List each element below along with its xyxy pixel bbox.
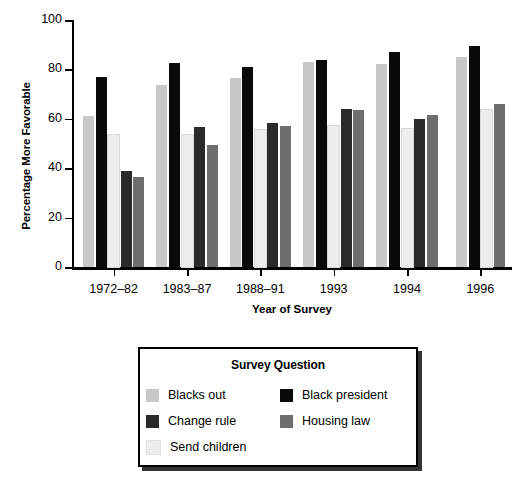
y-axis-tick xyxy=(65,267,72,269)
y-axis-tick-label: 20 xyxy=(30,210,62,224)
x-axis-tick xyxy=(114,269,116,276)
x-axis-tick-label: 1996 xyxy=(466,282,494,296)
y-axis-tick xyxy=(65,218,72,220)
y-axis-line xyxy=(72,20,74,269)
bar xyxy=(353,110,364,267)
x-axis-tick xyxy=(334,269,336,276)
bar xyxy=(328,126,339,267)
y-axis-tick xyxy=(65,20,72,22)
y-axis-tick-label: 80 xyxy=(30,61,62,75)
legend-swatch xyxy=(280,415,293,428)
bar xyxy=(402,129,413,267)
legend-label: Change rule xyxy=(168,414,236,428)
bar xyxy=(280,126,291,267)
legend-entries: Blacks outBlack presidentChange ruleHous… xyxy=(140,382,416,460)
y-axis-tick xyxy=(65,69,72,71)
x-axis-tick-label: 1994 xyxy=(393,282,421,296)
y-axis-tick xyxy=(65,119,72,121)
bar xyxy=(255,130,266,267)
bar xyxy=(242,67,253,267)
x-axis-line xyxy=(72,267,512,270)
legend-swatch xyxy=(146,415,159,428)
legend-item: Change rule xyxy=(146,408,280,434)
bar xyxy=(83,116,94,267)
y-axis-tick-label: 60 xyxy=(30,111,62,125)
legend-swatch xyxy=(146,440,161,455)
bar xyxy=(389,52,400,267)
bar xyxy=(481,110,492,267)
bar xyxy=(182,135,193,267)
plot-area: 020406080100 1972–821983–871988–91199319… xyxy=(72,20,512,269)
x-axis-tick-label: 1972–82 xyxy=(89,282,138,296)
x-axis-tick xyxy=(187,269,189,276)
bar xyxy=(303,62,314,267)
legend-label: Send children xyxy=(170,440,246,454)
y-axis-tick-label: 100 xyxy=(30,12,62,26)
bar xyxy=(376,64,387,267)
bar xyxy=(207,145,218,267)
legend-label: Blacks out xyxy=(168,388,226,402)
x-axis-tick xyxy=(480,269,482,276)
bar xyxy=(108,135,119,267)
legend-item: Blacks out xyxy=(146,382,280,408)
y-axis-tick xyxy=(65,168,72,170)
bar xyxy=(427,115,438,267)
x-axis-tick xyxy=(407,269,409,276)
legend-item: Send children xyxy=(146,434,280,460)
legend-label: Black president xyxy=(302,388,387,402)
bar xyxy=(230,78,241,267)
bar xyxy=(494,104,505,267)
legend-item: Housing law xyxy=(280,408,418,434)
bar xyxy=(341,109,352,267)
y-axis-title: Percentage More Favorable xyxy=(20,46,32,266)
bar xyxy=(194,127,205,267)
bar xyxy=(456,57,467,267)
legend-title: Survey Question xyxy=(140,358,416,372)
bar-chart-figure: Percentage More Favorable 020406080100 1… xyxy=(0,0,530,330)
x-axis-title: Year of Survey xyxy=(72,303,512,315)
y-axis-tick-label: 0 xyxy=(30,259,62,273)
x-axis-tick-label: 1988–91 xyxy=(236,282,285,296)
bar xyxy=(133,177,144,267)
legend-item: Black president xyxy=(280,382,418,408)
bar xyxy=(156,85,167,267)
x-axis-tick xyxy=(260,269,262,276)
bar xyxy=(169,63,180,267)
x-axis-tick-label: 1993 xyxy=(320,282,348,296)
legend-label: Housing law xyxy=(302,414,370,428)
bar xyxy=(267,123,278,267)
bar xyxy=(121,171,132,267)
legend-box: Survey Question Blacks outBlack presiden… xyxy=(138,347,418,467)
bar xyxy=(316,60,327,267)
bar xyxy=(469,46,480,267)
legend-swatch xyxy=(280,389,293,402)
legend-swatch xyxy=(146,389,159,402)
bar xyxy=(96,77,107,267)
bar xyxy=(414,119,425,267)
y-axis-tick-label: 40 xyxy=(30,160,62,174)
x-axis-tick-label: 1983–87 xyxy=(163,282,212,296)
